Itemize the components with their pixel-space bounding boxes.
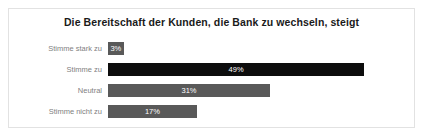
- bar-chart-plot-area: Stimme stark zu 3% Stimme zu 49% Neutral…: [9, 39, 414, 125]
- category-label-0: Stimme stark zu: [9, 42, 102, 55]
- bar-value-label-0: 3%: [108, 42, 124, 55]
- bar-value-label-2: 31%: [108, 84, 270, 97]
- category-label-1: Stimme zu: [9, 63, 102, 76]
- chart-card: Die Bereitschaft der Kunden, die Bank zu…: [8, 8, 415, 128]
- bar-1[interactable]: 49%: [108, 63, 364, 76]
- bar-3[interactable]: 17%: [108, 105, 197, 118]
- bar-row: Stimme stark zu 3%: [9, 42, 414, 55]
- bar-0[interactable]: 3%: [108, 42, 124, 55]
- bar-value-label-1: 49%: [108, 63, 364, 76]
- bar-track-0: 3%: [108, 42, 406, 55]
- bar-row: Neutral 31%: [9, 84, 414, 97]
- bar-row: Stimme nicht zu 17%: [9, 105, 414, 118]
- bar-track-3: 17%: [108, 105, 406, 118]
- bar-track-1: 49%: [108, 63, 406, 76]
- chart-title: Die Bereitschaft der Kunden, die Bank zu…: [9, 16, 414, 28]
- category-label-3: Stimme nicht zu: [9, 105, 102, 118]
- bar-row: Stimme zu 49%: [9, 63, 414, 76]
- bar-value-label-3: 17%: [108, 105, 197, 118]
- bar-track-2: 31%: [108, 84, 406, 97]
- bar-2[interactable]: 31%: [108, 84, 270, 97]
- category-label-2: Neutral: [9, 84, 102, 97]
